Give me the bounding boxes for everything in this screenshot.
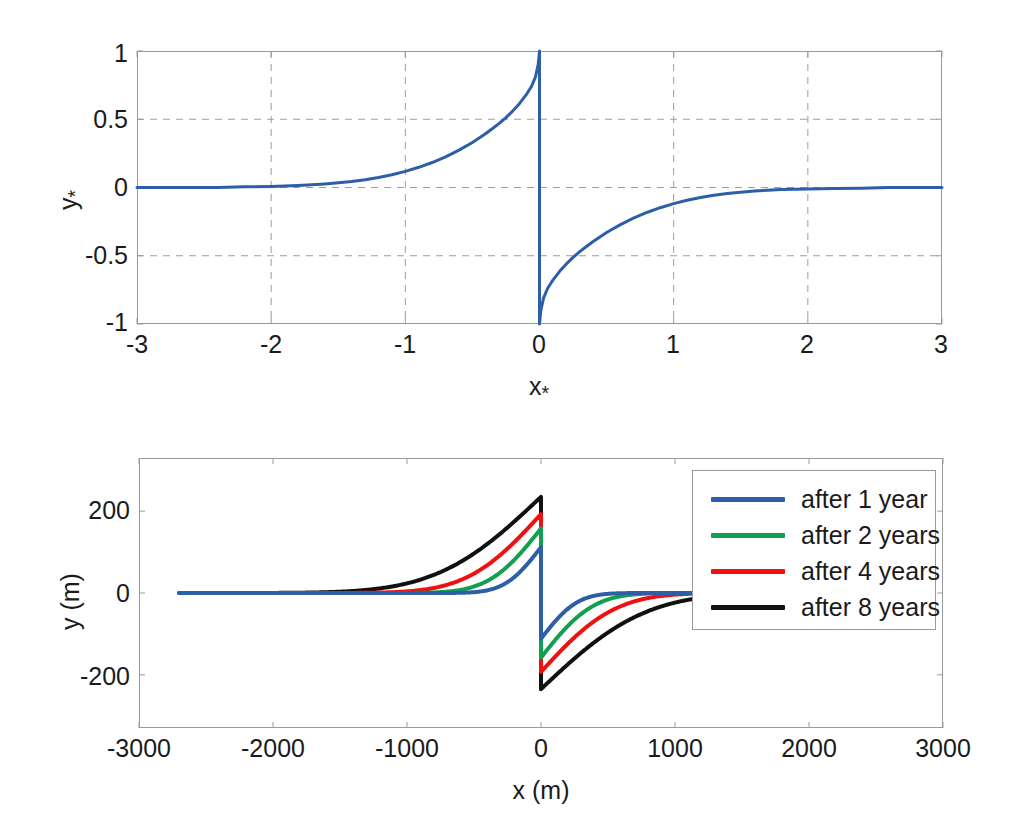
top-xaxis-label-base: x	[529, 372, 542, 400]
legend-label-after-2-years: after 2 years	[801, 523, 940, 548]
bottom-xtick-0: 0	[534, 736, 548, 761]
legend-item-after-1-year[interactable]: after 1 year	[711, 487, 927, 512]
top-panel: 1 0.5 0 -0.5 -1 -3 -2 -1 0 1 2 3 x* y*	[0, 0, 1012, 415]
legend-label-after-4-years: after 4 years	[801, 559, 940, 584]
legend-label-after-8-years: after 8 years	[801, 595, 940, 620]
top-yaxis-label-base: y	[54, 198, 82, 211]
bottom-xtick-1000: 1000	[647, 736, 703, 761]
top-ytick-neg0_5: -0.5	[85, 243, 128, 268]
top-xtick-0: 0	[532, 332, 546, 357]
top-yaxis-label-sub: *	[64, 190, 86, 198]
top-xtick-2: 2	[800, 332, 814, 357]
legend-swatch-after-8-years	[711, 605, 785, 610]
bottom-ytick-200: 200	[88, 498, 130, 523]
bottom-xtick-2000: 2000	[781, 736, 837, 761]
bottom-xtick-neg1000: -1000	[375, 736, 439, 761]
bottom-ytick-0: 0	[116, 581, 130, 606]
legend-swatch-after-1-year	[711, 497, 785, 502]
top-xtick-neg3: -3	[126, 332, 148, 357]
top-ytick-neg1: -1	[106, 310, 128, 335]
legend-item-after-8-years[interactable]: after 8 years	[711, 595, 940, 620]
top-plot-canvas	[0, 0, 1012, 415]
legend: after 1 year after 2 years after 4 years…	[692, 470, 936, 630]
legend-item-after-4-years[interactable]: after 4 years	[711, 559, 940, 584]
bottom-xtick-neg2000: -2000	[241, 736, 305, 761]
bottom-ytick-neg200: -200	[80, 664, 130, 689]
legend-item-after-2-years[interactable]: after 2 years	[711, 523, 940, 548]
top-xaxis-label-sub: *	[541, 382, 549, 404]
bottom-xtick-3000: 3000	[915, 736, 971, 761]
top-xaxis-label: x*	[529, 374, 549, 404]
top-xtick-neg2: -2	[260, 332, 282, 357]
bottom-panel: 200 0 -200 -3000 -2000 -1000 0 1000 2000…	[0, 415, 1012, 831]
top-xtick-neg1: -1	[394, 332, 416, 357]
bottom-xaxis-label: x (m)	[513, 778, 570, 803]
bottom-yaxis-label: y (m)	[58, 573, 83, 630]
top-ytick-1: 1	[114, 41, 128, 66]
top-xtick-3: 3	[934, 332, 948, 357]
top-ytick-0: 0	[114, 175, 128, 200]
figure-root: 1 0.5 0 -0.5 -1 -3 -2 -1 0 1 2 3 x* y* 2…	[0, 0, 1012, 831]
top-ytick-0_5: 0.5	[93, 107, 128, 132]
top-yaxis-label: y*	[56, 190, 86, 210]
legend-swatch-after-4-years	[711, 569, 785, 574]
bottom-xtick-neg3000: -3000	[107, 736, 171, 761]
legend-label-after-1-year: after 1 year	[801, 487, 927, 512]
top-xtick-1: 1	[666, 332, 680, 357]
legend-swatch-after-2-years	[711, 533, 785, 538]
